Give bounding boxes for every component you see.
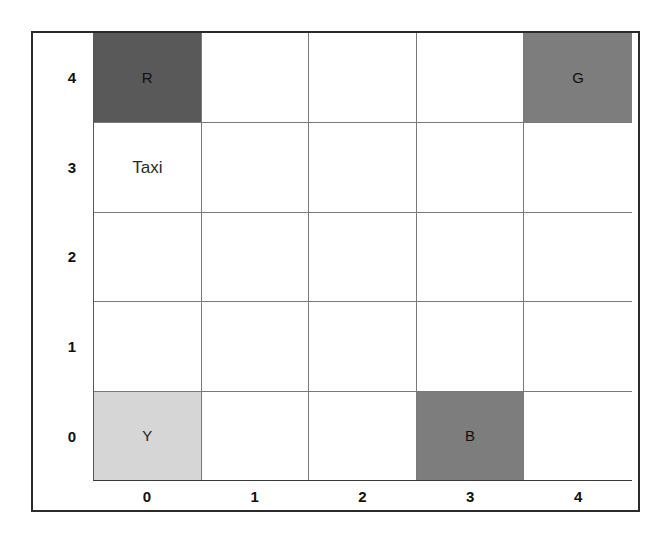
x-axis-tick: 4 xyxy=(524,481,632,511)
grid-cell-2-3[interactable] xyxy=(309,122,417,211)
grid-container: R G Taxi xyxy=(93,33,632,481)
y-axis-tick: 4 xyxy=(55,33,89,123)
grid-cell-0-1[interactable] xyxy=(94,301,202,390)
x-axis-tick: 1 xyxy=(201,481,309,511)
y-axis: 4 3 2 1 0 xyxy=(55,33,89,481)
grid-cell-3-4[interactable] xyxy=(417,33,525,122)
grid-cell-2-4[interactable] xyxy=(309,33,417,122)
taxi-label: Taxi xyxy=(132,159,162,176)
x-axis: 0 1 2 3 4 xyxy=(93,481,632,511)
grid-cell-1-3[interactable] xyxy=(202,122,310,211)
cell-label: G xyxy=(572,70,584,85)
grid-cell-4-3[interactable] xyxy=(524,122,632,211)
x-axis-tick: 3 xyxy=(416,481,524,511)
grid-cell-1-1[interactable] xyxy=(202,301,310,390)
grid-cell-3-3[interactable] xyxy=(417,122,525,211)
cell-label: B xyxy=(465,428,475,443)
grid-cell-1-0[interactable] xyxy=(202,391,310,480)
grid-cell-0-0[interactable]: Y xyxy=(94,391,202,480)
grid-cell-4-2[interactable] xyxy=(524,212,632,301)
taxi-grid-figure: 4 3 2 1 0 R G Taxi xyxy=(0,0,672,544)
grid-cell-0-2[interactable] xyxy=(94,212,202,301)
y-axis-tick: 0 xyxy=(55,391,89,481)
cell-label: R xyxy=(142,70,153,85)
grid-cell-2-1[interactable] xyxy=(309,301,417,390)
y-axis-tick: 2 xyxy=(55,212,89,302)
grid-cell-3-0[interactable]: B xyxy=(417,391,525,480)
grid-cell-0-4[interactable]: R xyxy=(94,33,202,122)
grid-cell-3-1[interactable] xyxy=(417,301,525,390)
grid-cell-4-1[interactable] xyxy=(524,301,632,390)
grid-cell-4-4[interactable]: G xyxy=(524,33,632,122)
cell-label: Y xyxy=(142,428,152,443)
x-axis-tick: 2 xyxy=(309,481,417,511)
grid-cell-2-2[interactable] xyxy=(309,212,417,301)
grid-cell-1-4[interactable] xyxy=(202,33,310,122)
y-axis-tick: 1 xyxy=(55,302,89,392)
x-axis-tick: 0 xyxy=(93,481,201,511)
grid-cell-2-0[interactable] xyxy=(309,391,417,480)
grid-cell-1-2[interactable] xyxy=(202,212,310,301)
grid-cell-4-0[interactable] xyxy=(524,391,632,480)
grid-cell-0-3[interactable]: Taxi xyxy=(94,122,202,211)
grid-cell-3-2[interactable] xyxy=(417,212,525,301)
grid: R G Taxi xyxy=(93,33,632,481)
y-axis-tick: 3 xyxy=(55,123,89,213)
